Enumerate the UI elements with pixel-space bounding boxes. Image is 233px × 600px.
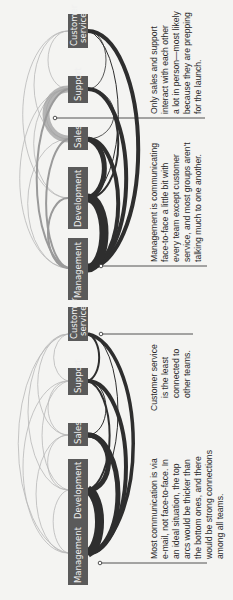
bottom-panel: Customer service Support Sales Developme…	[18, 297, 225, 585]
callout-management	[99, 264, 207, 268]
label-development: Development	[68, 459, 88, 521]
svg-text:an ideal situation, the top: an ideal situation, the top	[171, 463, 181, 559]
svg-text:connected to: connected to	[171, 349, 181, 398]
svg-text:Management is communicating: Management is communicating	[149, 143, 159, 262]
label-support: Support	[68, 359, 88, 395]
svg-text:service: service	[78, 306, 88, 336]
svg-text:Development: Development	[73, 169, 83, 227]
svg-text:Customer service: Customer service	[149, 344, 159, 411]
note-customer-service: Customer service is the least connected …	[149, 344, 192, 411]
label-customer-service: Customer service	[68, 4, 88, 48]
svg-text:talking much to one another.: talking much to one another.	[193, 154, 203, 262]
svg-text:Support: Support	[73, 67, 83, 101]
email-arcs-bottom	[88, 334, 133, 553]
label-management: Management	[68, 238, 88, 300]
label-sales: Sales	[68, 125, 88, 150]
svg-text:every team except customer: every team except customer	[171, 154, 181, 262]
svg-text:service, and most groups aren': service, and most groups aren't	[182, 142, 192, 262]
label-customer-service: Customer service	[68, 297, 88, 341]
svg-text:the bottom ones, and there: the bottom ones, and there	[193, 456, 203, 559]
svg-text:Support: Support	[73, 359, 83, 393]
svg-text:Most communication is via: Most communication is via	[149, 458, 159, 559]
svg-text:service: service	[78, 13, 88, 43]
label-sales: Sales	[68, 421, 88, 446]
label-development: Development	[68, 167, 88, 229]
svg-text:because they are prepping: because they are prepping	[182, 12, 192, 114]
team-labels-bottom: Customer service Support Sales Developme…	[68, 297, 88, 585]
svg-text:Management: Management	[73, 241, 83, 298]
svg-text:face-to-face a little bit with: face-to-face a little bit with	[160, 162, 170, 262]
svg-text:arcs would be thicker than: arcs would be thicker than	[182, 459, 192, 559]
svg-text:among all teams.: among all teams.	[215, 494, 225, 559]
note-sales-support: Only sales and support interact with eac…	[149, 11, 203, 114]
svg-text:would be strong connections: would be strong connections	[204, 450, 214, 560]
top-panel: Customer service Support Sales Developme…	[20, 4, 207, 300]
callout-sales-support	[53, 116, 205, 120]
team-labels-top: Customer service Support Sales Developme…	[68, 4, 88, 300]
arc-diagram: Customer service Support Sales Developme…	[0, 0, 233, 600]
note-overall: Most communication is via e-mail, not fa…	[149, 450, 225, 560]
svg-text:Sales: Sales	[73, 421, 83, 444]
callout-customer-service	[99, 332, 193, 336]
svg-text:Management: Management	[73, 526, 83, 583]
svg-text:interact with each other: interact with each other	[160, 25, 170, 114]
email-arcs	[88, 31, 138, 268]
svg-text:Development: Development	[73, 461, 83, 519]
svg-text:Sales: Sales	[73, 125, 83, 148]
face-to-face-arcs-bottom	[18, 334, 68, 553]
svg-text:other teams.: other teams.	[182, 350, 192, 398]
label-support: Support	[68, 67, 88, 103]
label-management: Management	[68, 521, 88, 585]
callout-overall	[98, 561, 207, 565]
svg-text:for the launch.: for the launch.	[193, 60, 203, 114]
svg-text:is the least: is the least	[160, 356, 170, 398]
svg-text:Only sales and support: Only sales and support	[149, 25, 159, 114]
note-management: Management is communicating face-to-face…	[149, 142, 203, 262]
svg-text:a lot in person—most likely: a lot in person—most likely	[171, 11, 181, 114]
svg-text:e-mail, not face-to-face. In: e-mail, not face-to-face. In	[160, 459, 170, 559]
